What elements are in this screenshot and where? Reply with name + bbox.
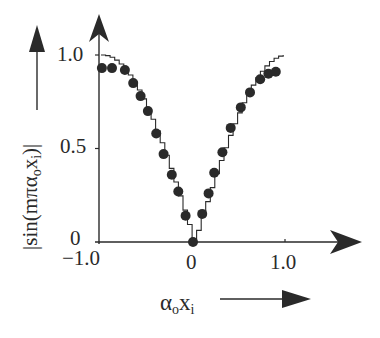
x-label-arrow-icon — [282, 290, 311, 308]
data-point — [107, 63, 117, 73]
y-label-arrow-icon — [29, 25, 45, 52]
data-point — [217, 147, 227, 157]
measured-points — [97, 63, 281, 247]
data-point — [120, 65, 130, 75]
data-point — [255, 74, 265, 84]
chart-area: 1.0 0.5 0 −1.0 0 1.0 |sin(mπαoxi)| αoxi — [0, 0, 380, 338]
data-point — [151, 129, 161, 139]
y-axis-label: |sin(mπαoxi)| — [18, 144, 45, 250]
data-point — [236, 102, 246, 112]
data-point — [136, 91, 146, 101]
x-tick-label-1: 1.0 — [270, 252, 296, 273]
data-point — [159, 149, 169, 159]
y-tick-label-1.0: 1.0 — [57, 44, 83, 65]
data-point — [204, 188, 214, 198]
data-point — [245, 87, 255, 97]
data-point — [128, 78, 138, 88]
x-tick-label-neg1: −1.0 — [62, 248, 100, 269]
y-tick-label-0.5: 0.5 — [60, 136, 86, 157]
data-point — [226, 123, 236, 133]
data-point — [167, 170, 177, 180]
x-axis-label: αoxi — [160, 290, 194, 318]
x-tick-label-0: 0 — [186, 252, 197, 273]
data-point — [188, 237, 198, 247]
data-point — [271, 67, 281, 77]
data-point — [173, 187, 183, 197]
data-point — [143, 106, 153, 116]
data-point — [209, 168, 219, 178]
data-point — [97, 63, 107, 73]
data-point — [197, 209, 207, 219]
data-point — [181, 211, 191, 221]
